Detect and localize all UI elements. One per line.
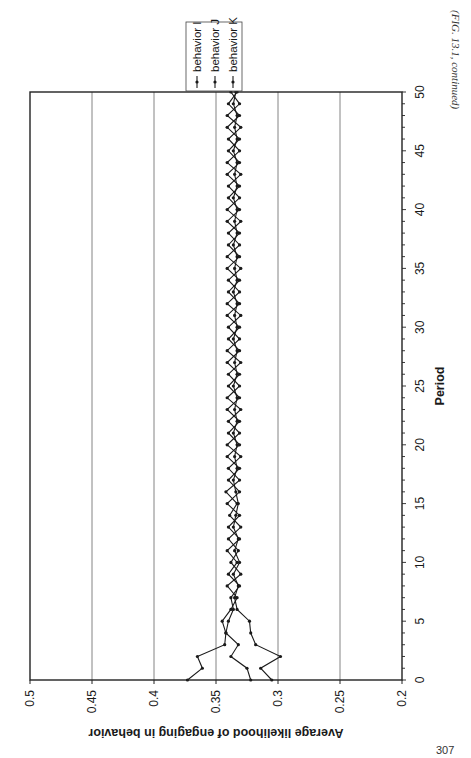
value-tick-label: 0.5 [23, 690, 37, 707]
period-tick-label: 20 [413, 438, 427, 452]
figure-caption: (FIG. 13.1, continued) [446, 10, 462, 250]
chart-canvas: 0.20.250.30.350.40.450.5 051015202530354… [0, 0, 471, 758]
period-tick-label: 15 [413, 497, 427, 511]
page-number: 307 [436, 744, 454, 756]
value-tick-label: 0.2 [395, 690, 409, 707]
period-tick-label: 50 [413, 85, 427, 99]
period-tick-label: 10 [413, 555, 427, 569]
legend: behavior Ibehavior Jbehavior K [186, 17, 242, 91]
period-tick-label: 35 [413, 261, 427, 275]
data-series [186, 90, 282, 681]
legend-label: behavior I [191, 21, 203, 72]
value-tick-label: 0.45 [85, 690, 99, 714]
value-tick-label: 0.35 [209, 690, 223, 714]
value-axis-ticks: 0.20.250.30.350.40.450.5 [23, 680, 409, 713]
value-axis-label: Average likelihood of engaging in behavi… [88, 726, 343, 740]
period-tick-label: 0 [413, 676, 427, 683]
period-tick-label: 5 [413, 618, 427, 625]
value-tick-label: 0.4 [147, 690, 161, 707]
value-tick-label: 0.3 [271, 690, 285, 707]
legend-label: behavior J [209, 19, 221, 72]
period-tick-label: 25 [413, 379, 427, 393]
period-tick-label: 45 [413, 144, 427, 158]
legend-label: behavior K [227, 17, 239, 72]
period-axis-label: Period [433, 367, 447, 406]
period-tick-label: 30 [413, 320, 427, 334]
period-tick-label: 40 [413, 203, 427, 217]
period-axis-ticks: 05101520253035404550 [402, 85, 427, 683]
gridlines [92, 92, 340, 680]
value-tick-label: 0.25 [333, 690, 347, 714]
